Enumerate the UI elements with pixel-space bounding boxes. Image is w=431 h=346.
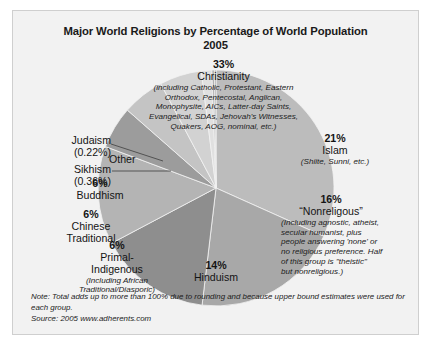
sikhism-percent: (0.36%) xyxy=(19,176,111,188)
slice-label-islam: 21% Islam (Shiite, Sunni, etc.) xyxy=(261,133,409,167)
christianity-detail-3: Monophysite, AICs, Latter-day Saints, xyxy=(116,102,331,112)
footnote-source: Source: 2005 www.adherents.com xyxy=(31,314,409,325)
nonreligious-detail-2: secular humanist, plus xyxy=(255,228,407,238)
slice-label-other: Other xyxy=(109,154,179,166)
christianity-name: Christianity xyxy=(116,71,331,83)
buddhism-name: Buddhism xyxy=(48,190,152,202)
nonreligious-detail-5: of this group is "theistic" xyxy=(255,257,407,267)
slice-label-christianity: 33% Christianity (including Catholic, Pr… xyxy=(116,59,331,132)
footnote-note-line-2: each group. xyxy=(31,303,409,314)
nonreligious-detail-6: but nonreligious.) xyxy=(255,267,407,277)
hinduism-name: Hinduism xyxy=(171,272,261,284)
other-name: Other xyxy=(109,154,179,166)
chart-figure: Major World Religions by Percentage of W… xyxy=(12,10,419,335)
nonreligious-detail-1: (Including agnostic, atheist, xyxy=(255,218,407,228)
nonreligious-detail-3: people answering 'none' or xyxy=(255,237,407,247)
nonreligious-name: “Nonreligous” xyxy=(255,206,407,218)
footnote-note-line-1: Note: Total adds up to more than 100% du… xyxy=(31,292,409,303)
primal-name-1: Primal- xyxy=(59,252,175,264)
slice-label-sikhism: Sikhism (0.36%) xyxy=(19,164,111,188)
primal-name-2: Indigenous xyxy=(59,264,175,276)
primal-detail-1: (Including African xyxy=(59,276,175,286)
chinese-name-1: Chinese xyxy=(39,221,143,233)
christianity-detail-1: (including Catholic, Protestant, Eastern xyxy=(116,83,331,93)
judaism-percent: (0.22%) xyxy=(19,147,111,159)
slice-label-nonreligious: 16% “Nonreligous” (Including agnostic, a… xyxy=(255,194,407,277)
islam-name: Islam xyxy=(261,145,409,157)
christianity-detail-4: Evangelical, SDAs, Jehovah's Witnesses, xyxy=(116,112,331,122)
slice-label-judaism: Judaism (0.22%) xyxy=(19,135,111,159)
slice-label-primal-indigenous: 6% Primal- Indigenous (Including African… xyxy=(59,240,175,295)
slice-label-hinduism: 14% Hinduism xyxy=(171,260,261,284)
christianity-detail-2: Orthodox, Pentecostal, Anglican, xyxy=(116,93,331,103)
nonreligious-detail-4: no religious preference. Half xyxy=(255,247,407,257)
christianity-detail-5: Quakers, AOG, nominal, etc.) xyxy=(116,122,331,132)
chart-footnote: Note: Total adds up to more than 100% du… xyxy=(31,292,409,325)
islam-detail-1: (Shiite, Sunni, etc.) xyxy=(261,157,409,167)
